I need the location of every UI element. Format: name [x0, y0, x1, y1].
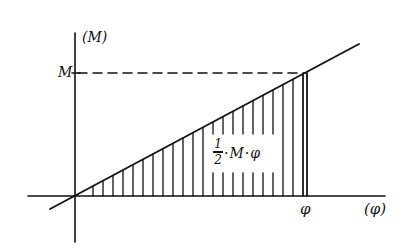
phi-value-label: φ	[300, 200, 311, 218]
area-formula-fraction: 1 2	[213, 138, 223, 166]
fraction-numerator: 1	[213, 138, 223, 150]
x-axis-label: (φ)	[364, 200, 386, 218]
linear-relation-line	[50, 44, 359, 209]
m-value-label: M	[58, 64, 72, 80]
work-area-diagram	[0, 0, 414, 249]
fraction-denominator: 2	[213, 154, 223, 166]
area-hatching	[93, 74, 303, 196]
area-formula-rest: ·M·φ	[224, 145, 261, 161]
y-axis-label: (M)	[82, 29, 107, 45]
